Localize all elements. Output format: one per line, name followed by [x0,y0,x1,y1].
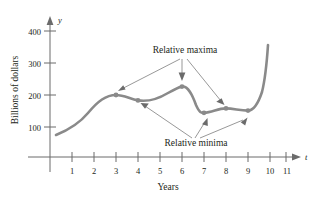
relative-minimum-point-t4 [136,98,141,103]
relative-maxima-annotation-group: Relative maxima [118,45,225,105]
x-tick-label-11: 11 [283,166,291,176]
x-tick-label-9: 9 [246,166,250,176]
data-curve [56,45,268,135]
maxima-arrowhead-t3 [118,85,126,91]
x-tick-label-10: 10 [266,166,275,176]
x-tick-label-6: 6 [180,166,184,176]
relative-maximum-point-t3 [114,93,119,98]
y-tick-label-group: 400 300 200 100 [28,27,41,133]
minima-leader-to-t4 [145,106,192,138]
y-tick-label-400: 400 [28,27,41,37]
minima-arrowhead-t9 [241,118,248,126]
x-tick-label-2: 2 [92,166,96,176]
relative-maxima-label: Relative maxima [153,45,218,55]
y-axis-variable-label: y [57,15,62,25]
x-tick-label-3: 3 [114,166,118,176]
relative-minimum-point-t9 [246,108,251,113]
y-tick-label-100: 100 [28,123,41,133]
relative-maximum-point-t6 [180,84,185,89]
x-tick-label-8: 8 [224,166,228,176]
y-axis-title: Billions of dollars [10,55,20,124]
x-axis-variable-label: t [305,152,308,162]
maxima-leader-to-t3 [123,59,181,89]
x-tick-label-4: 4 [136,166,141,176]
relative-minima-label: Relative minima [164,138,228,148]
x-axis-title: Years [157,182,179,192]
chart-canvas: 400 300 200 100 1 2 3 4 5 6 7 8 [0,0,316,199]
x-tick-label-7: 7 [202,166,206,176]
chart-figure: 400 300 200 100 1 2 3 4 5 6 7 8 [0,0,316,199]
y-tick-label-200: 200 [28,91,41,101]
maxima-arrowhead-t6 [179,73,186,82]
x-tick-label-1: 1 [70,166,74,176]
x-tick-label-group: 1 2 3 4 5 6 7 8 9 10 11 [70,166,291,176]
y-axis-arrowhead [47,16,54,25]
x-axis-arrowhead [292,154,301,161]
maxima-arrowhead-t8 [216,98,224,105]
relative-maximum-point-t8 [224,106,229,111]
y-tick-label-300: 300 [28,59,41,69]
x-tick-label-5: 5 [158,166,162,176]
relative-minimum-point-t7 [202,110,207,115]
